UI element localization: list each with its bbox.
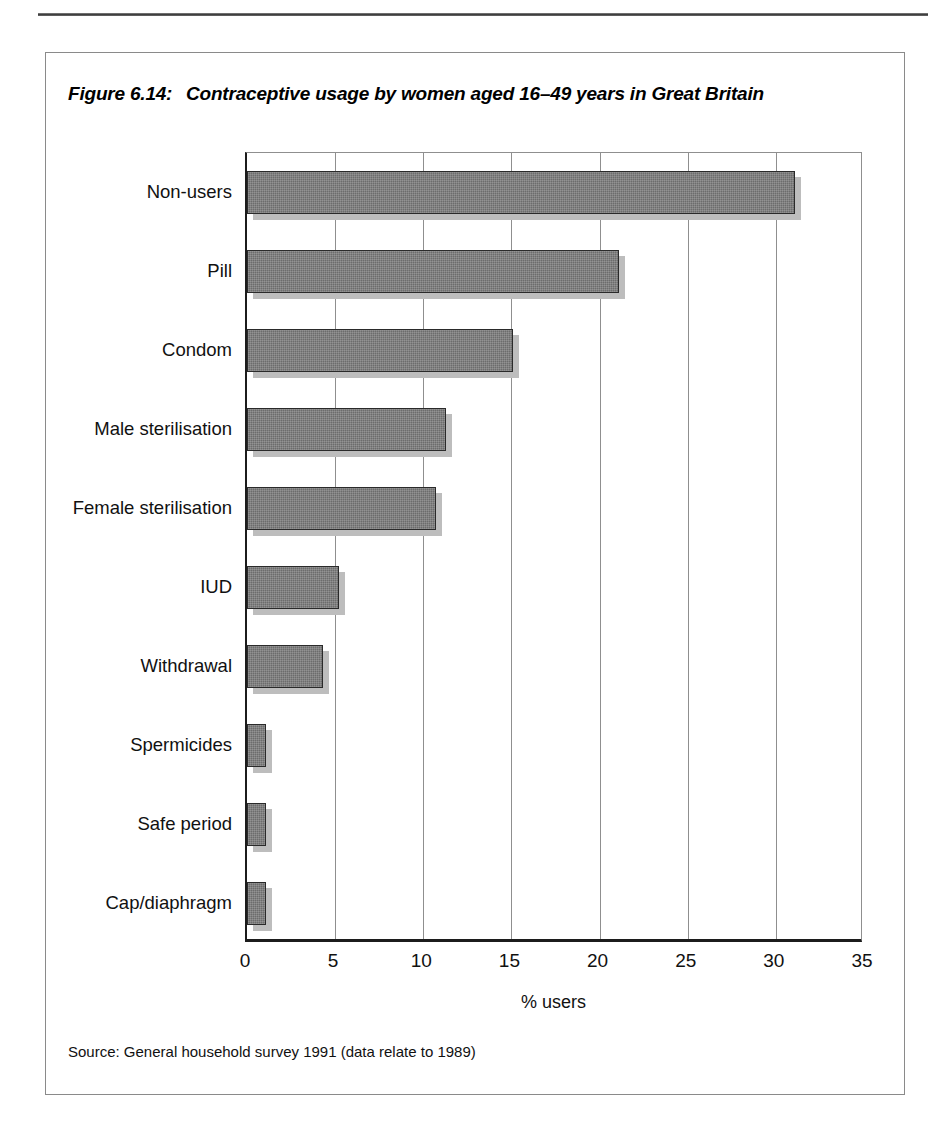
bar-fill [247, 882, 266, 925]
page-number: 162 [28, 0, 74, 10]
x-axis-title: % users [245, 992, 862, 1013]
x-axis-tick-labels: 05101520253035 [245, 950, 862, 980]
bar-fill [247, 329, 513, 372]
category-label: Pill [2, 249, 232, 292]
source-note: Source: General household survey 1991 (d… [68, 1043, 476, 1060]
bar-fill [247, 408, 446, 451]
bar-fill [247, 171, 795, 214]
x-tick-label: 5 [303, 950, 363, 972]
x-tick-label: 15 [479, 950, 539, 972]
category-label: Male sterilisation [2, 407, 232, 450]
plot-area [245, 152, 862, 942]
category-label: Spermicides [2, 723, 232, 766]
category-label: Condom [2, 328, 232, 371]
bars-layer [247, 153, 861, 939]
bar-fill [247, 250, 619, 293]
x-tick-label: 20 [568, 950, 628, 972]
bar-fill [247, 645, 323, 688]
x-tick-label: 35 [832, 950, 892, 972]
category-label: Female sterilisation [2, 486, 232, 529]
category-label: IUD [2, 565, 232, 608]
category-label: Non-users [2, 170, 232, 213]
x-tick-label: 30 [744, 950, 804, 972]
x-tick-label: 0 [215, 950, 275, 972]
bar-fill [247, 803, 266, 846]
figure-title: Figure 6.14:Contraceptive usage by women… [68, 83, 764, 105]
bar-fill [247, 487, 436, 530]
category-label: Withdrawal [2, 644, 232, 687]
x-tick-label: 25 [656, 950, 716, 972]
category-label: Safe period [2, 802, 232, 845]
category-label: Cap/diaphragm [2, 881, 232, 924]
figure-title-text: Contraceptive usage by women aged 16–49 … [186, 83, 764, 104]
x-tick-label: 10 [391, 950, 451, 972]
figure-number-label: Figure 6.14: [68, 83, 186, 105]
y-axis-category-labels: Non-usersPillCondomMale sterilisationFem… [0, 152, 232, 942]
page-header-rule [38, 13, 928, 16]
bar-fill [247, 724, 266, 767]
bar-fill [247, 566, 339, 609]
